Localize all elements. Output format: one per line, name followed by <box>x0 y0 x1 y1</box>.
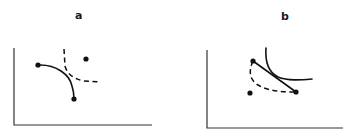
panel-a-label: a <box>75 9 82 22</box>
panel-a-point-left <box>35 62 40 67</box>
panel-b-point-isolated <box>247 90 252 95</box>
panel-b-axes <box>207 50 343 128</box>
panel-a-axes <box>14 48 152 125</box>
panel-a-point-isolated <box>83 56 88 61</box>
panel-a-dashed-curve <box>64 49 101 82</box>
panel-a-solid-curve <box>38 65 74 99</box>
panel-b-point-top <box>250 58 255 63</box>
panel-b-point-right <box>293 89 298 94</box>
panel-b-label: b <box>281 10 289 23</box>
panel-a: a <box>14 9 152 125</box>
figure-canvas: a b <box>0 0 352 138</box>
panel-a-point-bottom <box>71 96 76 101</box>
panel-b-straight-line <box>253 61 296 92</box>
panel-b: b <box>207 10 343 128</box>
